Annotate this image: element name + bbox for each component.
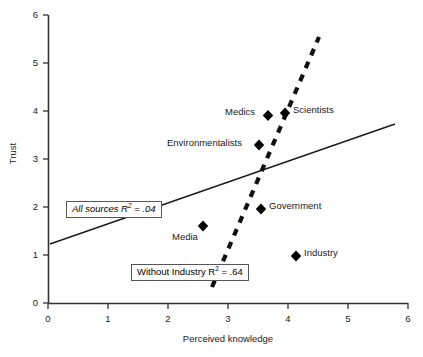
- data-point-markers: [198, 108, 301, 262]
- regression-line-without-industry: [212, 37, 319, 287]
- y-axis-title: Trust: [7, 134, 18, 174]
- without-industry-annotation: Without Industry R2 = .64: [131, 264, 249, 281]
- x-tick-label-5: 5: [340, 313, 356, 324]
- x-tick-label-6: 6: [400, 313, 416, 324]
- plot-canvas: [0, 0, 423, 357]
- y-tick-label-2: 2: [22, 201, 38, 212]
- all-sources-annotation-suffix: = .04: [132, 203, 156, 214]
- all-sources-annotation: All sources R2 = .04: [66, 201, 162, 218]
- y-tick-label-3: 3: [22, 153, 38, 164]
- marker-medics: [263, 110, 273, 121]
- marker-industry: [291, 251, 301, 262]
- point-label-medics: Medics: [225, 106, 255, 117]
- without-industry-annotation-suffix: = .64: [219, 266, 243, 277]
- point-label-environmentalists: Environmentalists: [167, 137, 242, 148]
- x-tick-label-0: 0: [40, 313, 56, 324]
- x-axis-title: Perceived knowledge: [148, 333, 308, 344]
- y-tick-label-5: 5: [22, 57, 38, 68]
- x-tick-label-3: 3: [220, 313, 236, 324]
- scatter-plot-figure: 6 5 4 3 2 1 0 0 1 2 3 4 5 6 Trust Percei…: [0, 0, 423, 357]
- y-tick-label-0: 0: [22, 297, 38, 308]
- x-tick-label-1: 1: [100, 313, 116, 324]
- y-tick-label-6: 6: [22, 9, 38, 20]
- point-label-government: Government: [269, 200, 321, 211]
- marker-media: [198, 221, 208, 232]
- x-tick-label-2: 2: [160, 313, 176, 324]
- y-tick-label-4: 4: [22, 105, 38, 116]
- marker-scientists: [280, 108, 290, 119]
- point-label-industry: Industry: [304, 247, 338, 258]
- marker-government: [256, 204, 266, 215]
- point-label-media: Media: [172, 231, 198, 242]
- point-label-scientists: Scientists: [293, 104, 334, 115]
- y-axis-ticks: [43, 15, 48, 303]
- x-tick-label-4: 4: [280, 313, 296, 324]
- without-industry-annotation-prefix: Without Industry R: [137, 266, 215, 277]
- marker-environmentalists: [254, 140, 264, 151]
- axis-lines: [48, 15, 408, 304]
- y-tick-label-1: 1: [22, 249, 38, 260]
- all-sources-annotation-prefix: All sources R: [72, 203, 128, 214]
